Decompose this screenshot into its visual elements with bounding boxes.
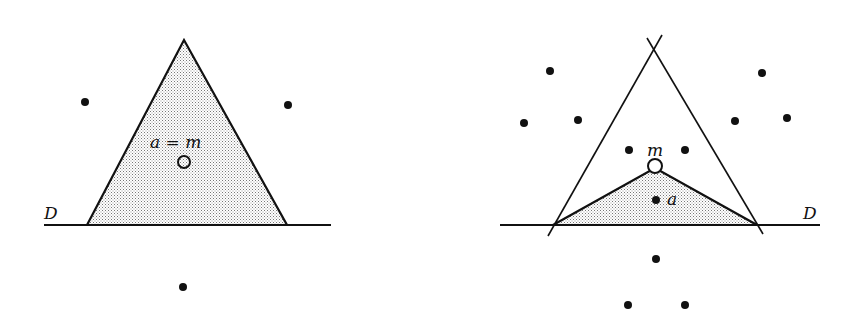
- label-d: D: [802, 203, 817, 223]
- point-dot: [758, 69, 766, 77]
- point-dot: [731, 117, 739, 125]
- point-dot: [81, 98, 89, 106]
- label-a-equals-m: a = m: [150, 132, 201, 152]
- point-dot: [652, 196, 660, 204]
- point-dot: [625, 146, 633, 154]
- diagram-svg: Da = m Dma: [0, 0, 855, 330]
- point-dot: [179, 283, 187, 291]
- point-m-circle: [648, 159, 662, 173]
- point-dot: [681, 301, 689, 309]
- point-dot: [624, 301, 632, 309]
- point-dot: [652, 255, 660, 263]
- point-dot: [284, 101, 292, 109]
- label-d: D: [43, 203, 58, 223]
- point-dot: [681, 146, 689, 154]
- right-figure: Dma: [500, 35, 820, 309]
- point-dot: [783, 114, 791, 122]
- label-m: m: [647, 140, 663, 160]
- diagram-canvas: Da = m Dma: [0, 0, 855, 330]
- point-dot: [546, 67, 554, 75]
- point-dot: [574, 116, 582, 124]
- label-a: a: [667, 189, 677, 209]
- point-dot: [520, 119, 528, 127]
- left-figure: Da = m: [43, 40, 331, 291]
